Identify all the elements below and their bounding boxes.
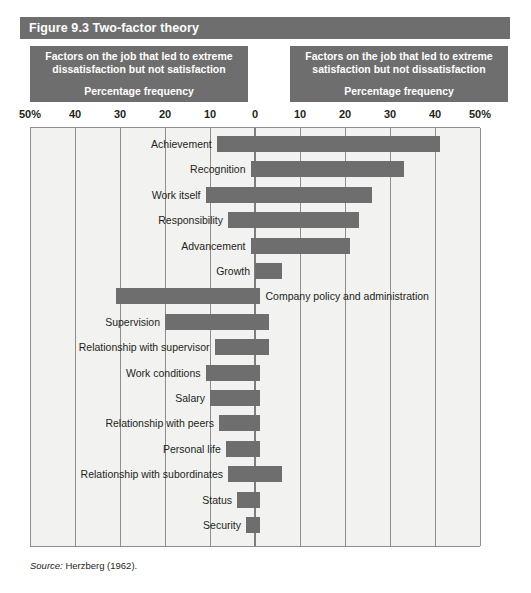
bar-responsibility	[228, 212, 359, 228]
bar-label-relationship-with-supervisor: Relationship with supervisor	[79, 339, 210, 355]
chart-row: Salary	[30, 389, 480, 407]
bar-label-company-policy-and-administration: Company policy and administration	[266, 288, 429, 304]
bar-label-supervision: Supervision	[105, 314, 160, 330]
chart-row: Achievement	[30, 135, 480, 153]
caption-box-dissatisfaction: Factors on the job that led to extreme d…	[30, 46, 248, 102]
bar-security	[246, 517, 260, 533]
bar-label-personal-life: Personal life	[163, 441, 221, 457]
chart-row: Recognition	[30, 160, 480, 178]
bar-achievement	[217, 136, 440, 152]
bar-label-growth: Growth	[216, 263, 250, 279]
x-axis-tick-7: 20	[339, 108, 351, 120]
x-axis-tick-1: 40	[69, 108, 81, 120]
bar-salary	[210, 390, 260, 406]
x-axis-tick-5: 0	[252, 108, 258, 120]
caption-right-subtitle: Percentage frequency	[344, 85, 454, 98]
x-axis-tick-3: 20	[159, 108, 171, 120]
source-note: Source: Herzberg (1962).	[30, 560, 137, 571]
caption-right-line1: Factors on the job that led to extreme	[305, 50, 492, 63]
bar-label-advancement: Advancement	[181, 238, 245, 254]
bar-work-conditions	[206, 365, 260, 381]
bar-relationship-with-peers	[219, 415, 260, 431]
bar-label-relationship-with-subordinates: Relationship with subordinates	[81, 466, 223, 482]
caption-left-line2: dissatisfaction but not satisfaction	[52, 63, 225, 76]
figure-container: Figure 9.3 Two-factor theory Factors on …	[0, 0, 531, 593]
caption-box-satisfaction: Factors on the job that led to extreme s…	[290, 46, 508, 102]
bar-label-work-itself: Work itself	[152, 187, 201, 203]
chart-row: Security	[30, 516, 480, 534]
source-label: Source:	[30, 560, 63, 571]
bar-relationship-with-subordinates	[228, 466, 282, 482]
source-citation: Herzberg (1962).	[63, 560, 137, 571]
chart-row: Relationship with supervisor	[30, 338, 480, 356]
bar-advancement	[251, 238, 350, 254]
x-axis-tick-10: 50%	[469, 108, 491, 120]
chart-row: Work conditions	[30, 364, 480, 382]
chart-row: Personal life	[30, 440, 480, 458]
bar-work-itself	[206, 187, 373, 203]
bar-label-achievement: Achievement	[151, 136, 212, 152]
bar-label-salary: Salary	[175, 390, 205, 406]
bar-company-policy-and-administration	[116, 288, 260, 304]
chart-row: Responsibility	[30, 211, 480, 229]
x-axis-tick-6: 10	[294, 108, 306, 120]
caption-left-subtitle: Percentage frequency	[84, 85, 194, 98]
bar-label-recognition: Recognition	[190, 161, 245, 177]
x-axis-tick-labels: 50%4030201001020304050%	[0, 108, 531, 124]
bar-label-status: Status	[202, 492, 232, 508]
bar-label-responsibility: Responsibility	[158, 212, 223, 228]
chart-row: Growth	[30, 262, 480, 280]
bar-recognition	[251, 161, 404, 177]
x-axis-tick-9: 40	[429, 108, 441, 120]
chart-row: Work itself	[30, 186, 480, 204]
chart-plot-area: AchievementRecognitionWork itselfRespons…	[30, 127, 480, 547]
bar-supervision	[165, 314, 269, 330]
chart-row: Supervision	[30, 313, 480, 331]
bar-label-relationship-with-peers: Relationship with peers	[105, 415, 214, 431]
chart-row: Relationship with peers	[30, 414, 480, 432]
x-axis-tick-8: 30	[384, 108, 396, 120]
chart-row: Status	[30, 491, 480, 509]
bar-growth	[255, 263, 282, 279]
bar-personal-life	[226, 441, 260, 457]
bar-label-security: Security	[203, 517, 241, 533]
bar-relationship-with-supervisor	[215, 339, 269, 355]
bar-label-work-conditions: Work conditions	[126, 365, 201, 381]
caption-left-line1: Factors on the job that led to extreme	[45, 50, 232, 63]
figure-title-bar: Figure 9.3 Two-factor theory	[20, 17, 510, 39]
caption-right-line2: satisfaction but not dissatisfaction	[312, 63, 485, 76]
bar-status	[237, 492, 260, 508]
chart-row: Advancement	[30, 237, 480, 255]
page-title: Figure 9.3 Two-factor theory	[29, 21, 199, 35]
x-axis-tick-4: 10	[204, 108, 216, 120]
chart-row: Company policy and administration	[30, 287, 480, 305]
chart-row: Relationship with subordinates	[30, 465, 480, 483]
x-axis-tick-0: 50%	[19, 108, 41, 120]
x-axis-tick-2: 30	[114, 108, 126, 120]
